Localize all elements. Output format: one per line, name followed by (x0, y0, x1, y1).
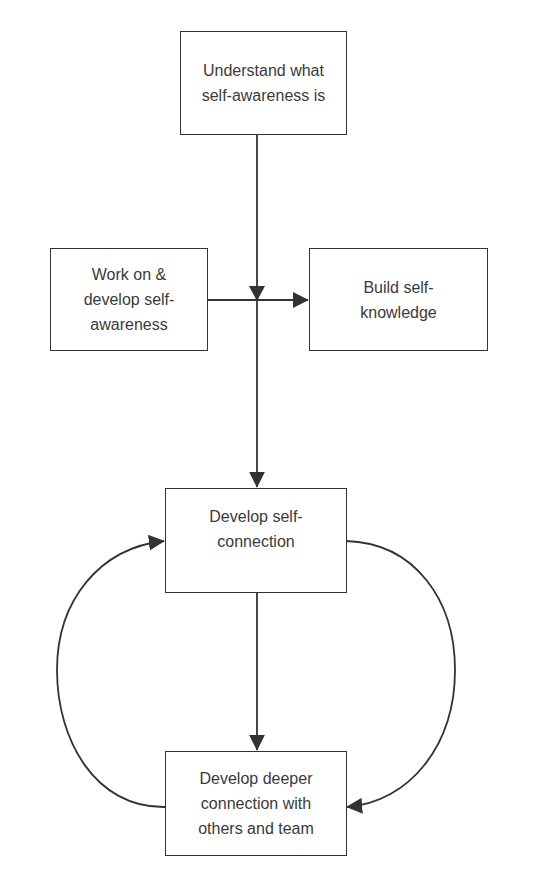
node-text-line: Build self- (360, 275, 437, 300)
node-develop-deeper-connection: Develop deeper connection with others an… (165, 751, 347, 856)
node-text-line: Understand what (202, 58, 326, 83)
node-work-on-self-awareness: Work on & develop self- awareness (50, 248, 208, 351)
node-text-line: connection (209, 529, 302, 554)
node-text-line: Develop deeper (198, 766, 314, 791)
node-text-line: others and team (198, 816, 314, 841)
node-develop-self-connection: Develop self- connection (165, 488, 347, 593)
node-text-line: self-awareness is (202, 83, 326, 108)
node-text-line: develop self- (84, 287, 175, 312)
junction-arrowhead-icon (249, 286, 265, 301)
node-text-line: connection with (198, 791, 314, 816)
arc-deeper-to-self-connection (57, 541, 165, 807)
node-understand-self-awareness: Understand what self-awareness is (180, 31, 347, 135)
node-text-line: knowledge (360, 300, 437, 325)
arc-self-connection-to-deeper (346, 541, 455, 807)
node-text-line: Develop self- (209, 504, 302, 529)
node-text-line: Work on & (84, 262, 175, 287)
node-build-self-knowledge: Build self- knowledge (309, 248, 488, 351)
node-text-line: awareness (84, 312, 175, 337)
